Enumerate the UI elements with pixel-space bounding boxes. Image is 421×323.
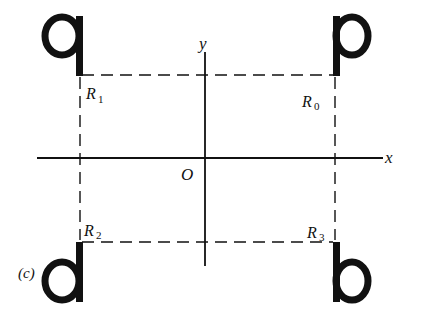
point-label-r3: R 3 xyxy=(306,224,325,243)
point-label-r2: R 2 xyxy=(83,222,102,241)
svg-text:2: 2 xyxy=(96,229,102,241)
letter-q-icon xyxy=(45,16,83,76)
svg-text:R: R xyxy=(83,222,94,239)
svg-text:R: R xyxy=(301,93,312,110)
svg-text:3: 3 xyxy=(319,231,325,243)
point-label-r0: R 0 xyxy=(301,93,320,112)
svg-text:R: R xyxy=(85,85,96,102)
svg-text:0: 0 xyxy=(314,100,320,112)
reflection-diagram: x y O R 1 R 0 xyxy=(0,0,421,323)
letter-b-icon xyxy=(333,242,368,302)
panel-label: (c) xyxy=(18,265,35,282)
svg-text:1: 1 xyxy=(98,93,104,105)
letter-d-icon xyxy=(45,242,83,302)
origin-label: O xyxy=(181,165,193,184)
letter-p-icon xyxy=(333,16,368,76)
svg-text:R: R xyxy=(306,224,317,241)
point-label-r1: R 1 xyxy=(85,85,104,105)
x-axis-label: x xyxy=(384,148,393,167)
y-axis-label: y xyxy=(197,34,207,53)
